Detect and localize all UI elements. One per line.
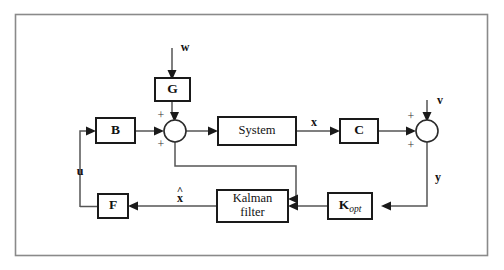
- block-kalman-filter-label-line1: Kalman: [233, 191, 273, 205]
- signal-label-w: w: [181, 40, 190, 54]
- plant-summing-junction-sign-left: +: [158, 137, 165, 151]
- block-kalman-filter-label-line2: filter: [240, 205, 265, 219]
- block-kopt-label-sub: opt: [349, 204, 362, 214]
- signal-label-y: y: [435, 170, 441, 184]
- signal-label-u: u: [77, 164, 84, 178]
- block-kopt-label-main: K: [339, 197, 350, 212]
- block-diagram-figure: B G System C F Kalman filter Kopt + + + …: [0, 0, 504, 270]
- measurement-summing-junction-sign-left: +: [408, 138, 415, 152]
- block-gain-g-label: G: [167, 81, 178, 96]
- signal-label-xhat: x: [177, 191, 183, 205]
- plant-summing-junction[interactable]: [164, 120, 186, 142]
- diagram-canvas: B G System C F Kalman filter Kopt + + + …: [0, 0, 504, 270]
- signal-label-x: x: [311, 115, 317, 129]
- block-gain-b-label: B: [111, 122, 120, 137]
- plant-summing-junction-sign-top: +: [158, 108, 165, 122]
- block-gain-c-label: C: [354, 122, 364, 137]
- measurement-summing-junction-sign-top: +: [408, 109, 415, 123]
- signal-label-v: v: [437, 93, 443, 107]
- block-gain-f-label: F: [109, 197, 117, 212]
- measurement-summing-junction[interactable]: [416, 120, 438, 142]
- block-system-label: System: [239, 123, 276, 137]
